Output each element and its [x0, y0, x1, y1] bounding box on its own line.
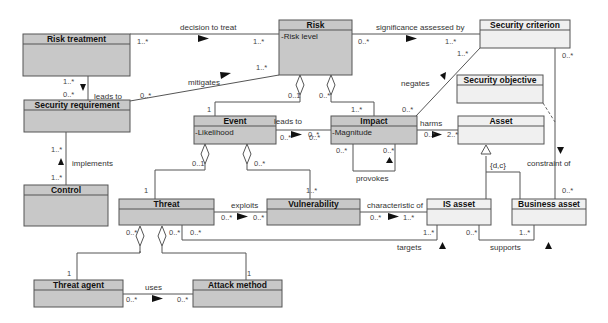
class-security-criterion[interactable]: Security criterion	[480, 20, 570, 48]
svg-text:0..1: 0..1	[288, 91, 301, 100]
direction-arrow-icon	[198, 35, 209, 42]
aggregation-threat-agent	[77, 251, 140, 280]
svg-text:0..*: 0..*	[253, 213, 264, 222]
direction-arrow-icon	[291, 131, 302, 138]
class-asset[interactable]: Asset	[458, 116, 544, 144]
svg-text:0..*: 0..*	[424, 130, 435, 139]
svg-text:0..*: 0..*	[370, 213, 381, 222]
label-characteristic-of: characteristic of	[367, 201, 424, 210]
class-risk[interactable]: Risk -Risk level	[279, 20, 352, 75]
svg-text:1: 1	[207, 105, 211, 114]
class-name: Event	[223, 116, 246, 126]
svg-text:1: 1	[144, 186, 148, 195]
svg-text:0..*: 0..*	[177, 295, 188, 304]
label-harms: harms	[420, 119, 442, 128]
class-vulnerability[interactable]: Vulnerability	[267, 199, 360, 225]
class-name: Security criterion	[490, 20, 560, 30]
class-control[interactable]: Control	[24, 185, 108, 226]
assoc-targets	[182, 225, 437, 240]
class-name: Security requirement	[34, 100, 119, 110]
label-negates: negates	[401, 79, 429, 88]
svg-text:1..*: 1..*	[457, 49, 468, 58]
svg-text:0..*: 0..*	[169, 228, 180, 237]
aggregation-event-vulnerability	[247, 164, 310, 199]
label-generalization-constraint: {d,c}	[490, 161, 506, 170]
svg-text:0..*: 0..*	[383, 146, 394, 155]
svg-text:0..*: 0..*	[126, 228, 137, 237]
direction-arrow-icon	[152, 295, 163, 302]
aggregation-diamond-icon	[243, 144, 251, 164]
class-impact[interactable]: Impact -Magnitude	[331, 116, 417, 144]
class-threat[interactable]: Threat	[119, 199, 214, 225]
svg-text:1..*: 1..*	[253, 37, 264, 46]
svg-text:0..*: 0..*	[63, 90, 74, 99]
class-name: IS asset	[443, 199, 475, 209]
svg-text:2..*: 2..*	[447, 130, 458, 139]
label-exploits: exploits	[231, 201, 258, 210]
label-decision-to-treat: decision to treat	[180, 23, 237, 32]
svg-text:0..*: 0..*	[562, 51, 573, 60]
svg-text:0..*: 0..*	[319, 91, 330, 100]
label-constraint-of: constraint of	[527, 159, 571, 168]
class-name: Asset	[489, 116, 512, 126]
class-business-asset[interactable]: Business asset	[512, 199, 586, 225]
dependency-security-objective	[543, 103, 555, 122]
class-name: Risk	[307, 20, 325, 30]
svg-text:0..*: 0..*	[336, 146, 347, 155]
aggregation-attack-method	[162, 246, 246, 280]
label-significance-assessed-by: significance assessed by	[376, 23, 465, 32]
class-name: Threat	[154, 199, 180, 209]
class-name: Security objective	[464, 75, 537, 85]
direction-arrow-icon	[58, 158, 64, 165]
label-implements: implements	[72, 159, 113, 168]
svg-text:0..*: 0..*	[280, 133, 291, 142]
svg-text:0..1: 0..1	[192, 159, 205, 168]
svg-text:0..*: 0..*	[126, 295, 137, 304]
uml-diagram: Risk treatment Risk -Risk level Security…	[0, 0, 608, 323]
direction-arrow-icon	[557, 147, 564, 154]
svg-text:1..*: 1..*	[423, 228, 434, 237]
aggregation-event-threat	[155, 164, 205, 199]
generalization-triangle-icon	[481, 145, 491, 154]
label-leads-to: leads to	[94, 92, 123, 101]
class-attribute: -Risk level	[281, 32, 318, 41]
class-event[interactable]: Event -Likelihood	[194, 116, 276, 144]
svg-text:1..*: 1..*	[445, 37, 456, 46]
class-security-objective[interactable]: Security objective	[457, 75, 543, 103]
direction-arrow-icon	[440, 72, 446, 80]
svg-text:0..*: 0..*	[254, 159, 265, 168]
svg-text:0..*: 0..*	[308, 130, 319, 139]
svg-text:1: 1	[247, 269, 251, 278]
label-provokes: provokes	[356, 174, 388, 183]
svg-text:1..*: 1..*	[519, 228, 530, 237]
class-name: Control	[51, 185, 81, 195]
svg-text:0..*: 0..*	[190, 228, 201, 237]
svg-text:1..*: 1..*	[51, 173, 62, 182]
class-security-requirement[interactable]: Security requirement	[24, 100, 130, 132]
direction-arrow-icon	[386, 157, 393, 163]
direction-arrow-icon	[439, 242, 446, 249]
svg-text:1..*: 1..*	[256, 63, 267, 72]
class-name: Vulnerability	[288, 199, 339, 209]
svg-text:0..*: 0..*	[562, 186, 573, 195]
class-attribute: -Likelihood	[195, 128, 234, 137]
class-attack-method[interactable]: Attack method	[193, 280, 282, 307]
svg-text:1..*: 1..*	[51, 145, 62, 154]
direction-arrow-icon	[237, 213, 248, 220]
direction-arrow-icon	[388, 213, 399, 220]
class-name: Business asset	[518, 199, 580, 209]
generalization-lines	[486, 172, 520, 199]
svg-text:0..*: 0..*	[358, 37, 369, 46]
class-is-asset[interactable]: IS asset	[427, 199, 491, 225]
direction-arrow-icon	[80, 84, 86, 91]
class-name: Impact	[360, 116, 388, 126]
class-name: Threat agent	[53, 280, 104, 290]
class-attribute: -Magnitude	[332, 128, 373, 137]
svg-text:0..*: 0..*	[140, 91, 151, 100]
aggregation-diamond-icon	[158, 226, 166, 246]
label-uses: uses	[145, 283, 162, 292]
class-threat-agent[interactable]: Threat agent	[34, 280, 123, 307]
class-risk-treatment[interactable]: Risk treatment	[23, 34, 130, 76]
label-mitigates: mitigates	[188, 78, 220, 87]
direction-arrow-icon	[220, 72, 231, 79]
